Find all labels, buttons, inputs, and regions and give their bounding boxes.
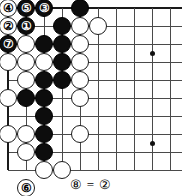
stone-black[interactable]	[35, 107, 53, 125]
stone-white[interactable]	[0, 53, 17, 71]
numbered-stone-white[interactable]: ④	[0, 0, 17, 17]
stone-move-number: ②	[0, 18, 16, 35]
stone-white[interactable]	[71, 35, 89, 53]
stone-black[interactable]	[35, 89, 53, 107]
board-grid-line-vertical	[152, 8, 153, 170]
stone-black[interactable]	[35, 71, 53, 89]
stone-white[interactable]	[17, 53, 35, 71]
stone-white[interactable]	[71, 89, 89, 107]
stone-black[interactable]	[53, 35, 71, 53]
stone-white[interactable]	[0, 125, 17, 143]
stone-move-number: ③	[36, 0, 52, 17]
stone-black[interactable]	[17, 89, 35, 107]
star-point	[150, 141, 155, 146]
stone-white[interactable]	[71, 125, 89, 143]
stone-white[interactable]	[71, 53, 89, 71]
numbered-stone-black[interactable]: ⑤	[17, 0, 35, 17]
stone-white[interactable]	[89, 17, 107, 35]
numbered-stone-black[interactable]: ①	[17, 17, 35, 35]
board-grid-line-vertical	[116, 8, 117, 170]
board-grid-line-vertical	[134, 8, 135, 170]
stone-move-number: ④	[0, 0, 16, 17]
stone-black[interactable]	[53, 53, 71, 71]
stone-black[interactable]	[53, 71, 71, 89]
stone-white[interactable]	[71, 17, 89, 35]
stone-white[interactable]	[17, 143, 35, 161]
stone-white[interactable]	[17, 71, 35, 89]
numbered-stone-black[interactable]: ③	[35, 0, 53, 17]
stone-white[interactable]	[35, 53, 53, 71]
numbered-stone-black[interactable]: ⑦	[0, 35, 17, 53]
stone-white[interactable]	[17, 35, 35, 53]
board-grid-line-vertical	[170, 8, 171, 170]
stone-white[interactable]	[71, 71, 89, 89]
stone-move-number: ⑦	[0, 36, 16, 53]
stone-black[interactable]	[35, 35, 53, 53]
stone-white[interactable]	[0, 89, 17, 107]
numbered-stone-white[interactable]: ②	[0, 17, 17, 35]
stone-black[interactable]	[71, 0, 89, 17]
go-diagram-figure: ④⑤③②①⑦⑥ ⑧ = ②	[0, 0, 182, 196]
stone-white[interactable]	[17, 125, 35, 143]
stone-move-number: ⑤	[18, 0, 34, 17]
go-board[interactable]: ④⑤③②①⑦⑥	[0, 0, 182, 176]
diagram-caption: ⑧ = ②	[0, 174, 182, 196]
stone-black[interactable]	[53, 17, 71, 35]
stone-black[interactable]	[35, 125, 53, 143]
star-point	[150, 51, 155, 56]
stone-black[interactable]	[35, 143, 53, 161]
stone-move-number: ①	[18, 18, 34, 35]
